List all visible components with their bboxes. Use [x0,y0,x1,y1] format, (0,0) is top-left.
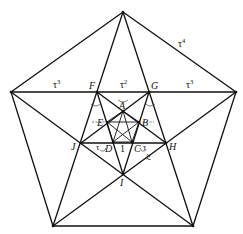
label-E: E [96,117,103,128]
pentagram-golden-ratio-diagram: F G A E B J H D C I τ4 τ3 τ2 τ3 1 τ τ τ² [0,0,243,234]
label-J: J [71,141,76,152]
label-tau2-middle: τ2 [120,78,127,90]
label-G: G [151,80,158,91]
label-tau-left: τ [96,142,100,152]
label-A: A [118,100,126,111]
label-tau4: τ4 [178,37,186,49]
label-one: 1 [120,143,125,154]
label-B: B [142,117,148,128]
outer-pentagon [11,12,236,226]
label-D: D [104,143,113,154]
outer-pentagram [11,12,236,226]
label-tau3-left: τ3 [53,78,60,90]
label-tau3-right: τ3 [186,78,193,90]
label-F: F [88,80,96,91]
label-C: C [134,143,141,154]
label-H: H [168,141,177,152]
label-I: I [119,177,124,188]
label-tau-right: τ [143,142,147,152]
